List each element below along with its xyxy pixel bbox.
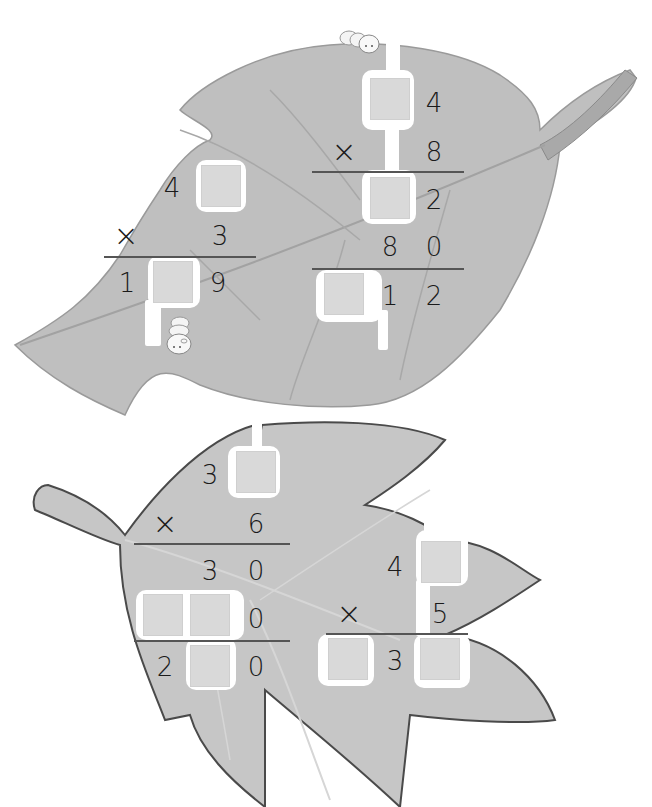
multiply-sign: ×	[113, 221, 138, 251]
answer-box[interactable]	[370, 78, 410, 120]
cutout	[386, 40, 400, 80]
answer-box[interactable]	[201, 165, 241, 207]
cutout	[378, 310, 388, 350]
result-digit: 3	[387, 648, 404, 674]
sum-line	[312, 171, 464, 173]
sum-line	[326, 633, 468, 635]
sum-digit: 2	[426, 283, 443, 309]
sum-line	[312, 268, 464, 270]
multiplier-digit: 3	[212, 223, 229, 249]
answer-box[interactable]	[190, 594, 230, 636]
sum-digit: 2	[157, 654, 174, 680]
answer-box[interactable]	[143, 594, 183, 636]
cutout	[252, 420, 262, 450]
partial-digit: 0	[248, 606, 265, 632]
answer-box[interactable]	[328, 638, 368, 680]
answer-box[interactable]	[420, 638, 460, 680]
multiply-sign: ×	[152, 509, 177, 539]
sum-line	[134, 543, 290, 545]
bottom-leaf	[34, 422, 555, 807]
answer-box[interactable]	[190, 645, 230, 687]
partial-digit: 3	[202, 558, 219, 584]
sum-line	[104, 256, 256, 258]
cutout	[424, 505, 436, 535]
multiplier-digit: 6	[248, 511, 265, 537]
multiplier-digit: 5	[432, 601, 449, 627]
multiplicand-digit: 3	[202, 462, 219, 488]
top-leaf	[15, 44, 637, 415]
partial-digit: 0	[426, 234, 443, 260]
caterpillar-icon	[336, 26, 386, 58]
answer-box[interactable]	[153, 261, 193, 303]
partial-digit: 0	[248, 558, 265, 584]
cutout	[145, 300, 161, 346]
answer-box[interactable]	[236, 451, 276, 493]
sum-digit: 1	[382, 283, 399, 309]
partial-digit: 8	[382, 234, 399, 260]
cutout	[385, 128, 399, 176]
result-digit: 1	[119, 270, 136, 296]
stem-icon	[540, 70, 637, 160]
answer-box[interactable]	[421, 541, 461, 583]
sum-line	[134, 640, 290, 642]
sum-digit: 0	[248, 654, 265, 680]
answer-box[interactable]	[370, 177, 410, 219]
cutout	[416, 580, 430, 636]
multiplier-digit: 8	[426, 139, 443, 165]
multiply-sign: ×	[336, 599, 361, 629]
multiplicand-digit: 4	[426, 90, 443, 116]
multiply-sign: ×	[331, 137, 356, 167]
multiplicand-digit: 4	[164, 175, 181, 201]
answer-box[interactable]	[324, 273, 364, 315]
partial-digit: 2	[426, 187, 443, 213]
multiplicand-digit: 4	[387, 554, 404, 580]
caterpillar-icon	[162, 314, 196, 358]
result-digit: 9	[210, 270, 227, 296]
